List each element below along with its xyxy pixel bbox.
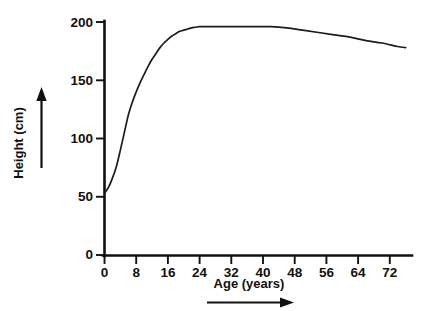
y-tick-label-200: 200	[70, 15, 93, 30]
x-tick-label-48: 48	[287, 265, 303, 280]
x-tick-label-72: 72	[382, 265, 397, 280]
chart-svg-canvas: 200 150 100 50 0 0 8 16 24 32 40	[0, 0, 426, 311]
y-tick-label-0: 0	[85, 247, 93, 262]
x-tick-label-16: 16	[160, 265, 176, 280]
y-tick-label-150: 150	[70, 73, 93, 88]
growth-chart-figure: 200 150 100 50 0 0 8 16 24 32 40	[0, 0, 426, 311]
y-tick-label-100: 100	[70, 131, 93, 146]
x-tick-label-56: 56	[319, 265, 335, 280]
x-tick-label-0: 0	[101, 265, 109, 280]
x-tick-label-64: 64	[351, 265, 367, 280]
x-tick-label-24: 24	[192, 265, 208, 280]
x-tick-label-8: 8	[132, 265, 140, 280]
x-axis-title: Age (years)	[214, 276, 285, 291]
y-tick-label-50: 50	[78, 189, 93, 204]
y-axis-title: Height (cm)	[11, 107, 26, 179]
